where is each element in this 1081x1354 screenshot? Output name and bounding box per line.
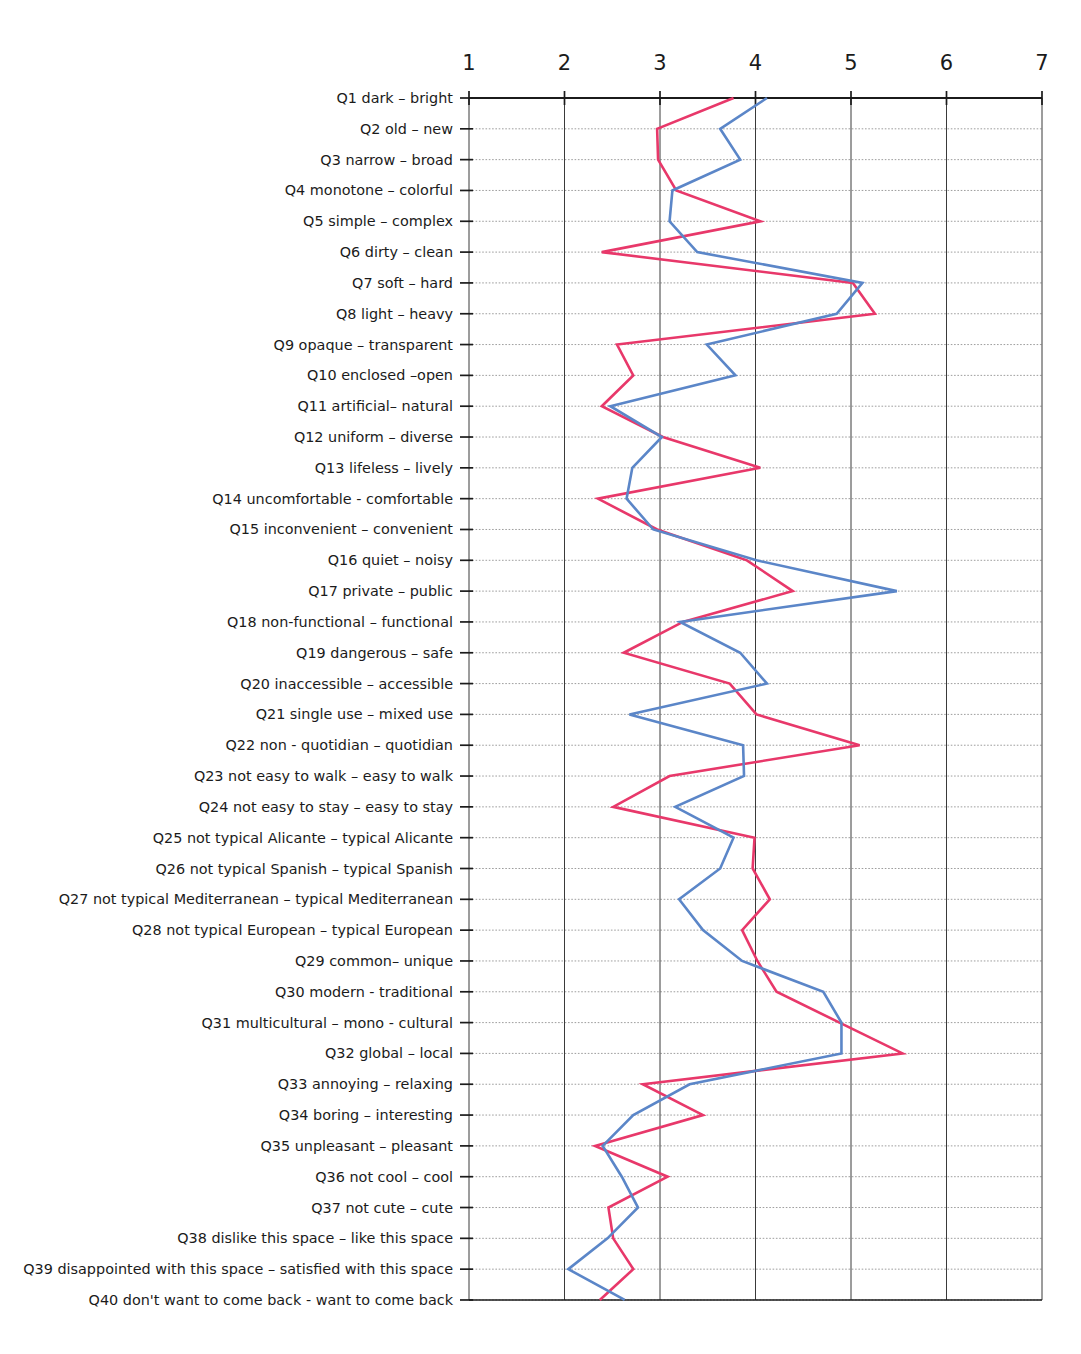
row-label-q31: Q31 multicultural – mono - cultural	[202, 1015, 453, 1031]
row-label-q2: Q2 old – new	[360, 121, 453, 137]
grid-major-columns	[469, 98, 1042, 1300]
row-label-q19: Q19 dangerous – safe	[296, 645, 453, 661]
row-label-q14: Q14 uncomfortable - comfortable	[212, 491, 453, 507]
row-label-q1: Q1 dark – bright	[336, 90, 453, 106]
row-label-q21: Q21 single use – mixed use	[256, 706, 453, 722]
row-label-q36: Q36 not cool – cool	[315, 1169, 453, 1185]
row-label-q13: Q13 lifeless – lively	[315, 460, 454, 476]
row-label-q11: Q11 artificial– natural	[297, 398, 453, 414]
row-label-q22: Q22 non - quotidian – quotidian	[226, 737, 454, 753]
row-label-q6: Q6 dirty – clean	[340, 244, 453, 260]
chart-page: 1234567 Q1 dark – brightQ2 old – newQ3 n…	[0, 0, 1081, 1354]
row-label-q32: Q32 global – local	[325, 1045, 453, 1061]
row-label-q10: Q10 enclosed –open	[307, 367, 453, 383]
row-tickmarks	[460, 91, 1042, 1300]
x-axis-tick-label-6: 6	[940, 51, 953, 75]
row-label-q26: Q26 not typical Spanish – typical Spanis…	[155, 861, 453, 877]
row-label-q7: Q7 soft – hard	[352, 275, 453, 291]
row-label-q38: Q38 dislike this space – like this space	[177, 1230, 453, 1246]
row-label-q18: Q18 non-functional – functional	[227, 614, 453, 630]
row-label-q12: Q12 uniform – diverse	[294, 429, 453, 445]
row-label-q8: Q8 light – heavy	[336, 306, 454, 322]
x-axis-tick-label-7: 7	[1035, 51, 1048, 75]
row-label-q27: Q27 not typical Mediterranean – typical …	[59, 891, 453, 907]
row-category-labels: Q1 dark – brightQ2 old – newQ3 narrow – …	[23, 90, 453, 1308]
row-label-q4: Q4 monotone – colorful	[285, 182, 453, 198]
row-label-q25: Q25 not typical Alicante – typical Alica…	[153, 830, 453, 846]
row-label-q3: Q3 narrow – broad	[320, 152, 453, 168]
row-label-q23: Q23 not easy to walk – easy to walk	[194, 768, 454, 784]
row-label-q29: Q29 common– unique	[295, 953, 453, 969]
x-axis-tick-label-3: 3	[653, 51, 666, 75]
row-label-q5: Q5 simple – complex	[303, 213, 453, 229]
row-label-q34: Q34 boring – interesting	[279, 1107, 453, 1123]
row-label-q33: Q33 annoying – relaxing	[278, 1076, 453, 1092]
x-axis-tick-label-2: 2	[558, 51, 571, 75]
data-series-lines	[568, 98, 902, 1300]
series-line-series-blue	[568, 98, 897, 1300]
row-label-q20: Q20 inaccessible – accessible	[240, 676, 453, 692]
row-label-q28: Q28 not typical European – typical Europ…	[132, 922, 453, 938]
x-axis-tick-label-5: 5	[844, 51, 857, 75]
x-axis-tick-label-1: 1	[462, 51, 475, 75]
row-label-q37: Q37 not cute – cute	[311, 1200, 453, 1216]
x-axis-tick-labels: 1234567	[462, 51, 1048, 75]
row-label-q9: Q9 opaque – transparent	[274, 337, 454, 353]
row-label-q24: Q24 not easy to stay – easy to stay	[199, 799, 454, 815]
row-label-q39: Q39 disappointed with this space – satis…	[23, 1261, 453, 1277]
semantic-differential-chart: 1234567 Q1 dark – brightQ2 old – newQ3 n…	[0, 0, 1081, 1354]
row-label-q17: Q17 private – public	[308, 583, 453, 599]
row-label-q40: Q40 don't want to come back - want to co…	[89, 1292, 454, 1308]
x-axis-tick-label-4: 4	[749, 51, 762, 75]
chart-svg: 1234567 Q1 dark – brightQ2 old – newQ3 n…	[0, 0, 1081, 1354]
row-label-q35: Q35 unpleasant – pleasant	[260, 1138, 453, 1154]
row-label-q15: Q15 inconvenient – convenient	[229, 521, 453, 537]
row-label-q16: Q16 quiet – noisy	[328, 552, 454, 568]
series-line-series-pink	[595, 98, 903, 1300]
row-label-q30: Q30 modern - traditional	[275, 984, 453, 1000]
